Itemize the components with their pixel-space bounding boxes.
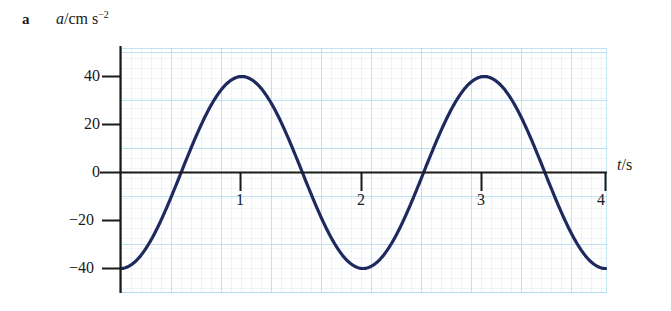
part-label: a: [22, 10, 30, 28]
y-tick-label-20: 20: [40, 116, 100, 132]
y-axis-unit-exponent: −2: [98, 9, 109, 20]
x-axis-caption: t/s: [617, 155, 632, 175]
x-axis-unit-text: s: [626, 156, 632, 173]
x-tick-label-2: 2: [346, 192, 376, 208]
y-axis-unit-text: /cm s: [64, 10, 98, 27]
x-tick-label-4: 4: [586, 192, 616, 208]
acceleration-curve: [121, 48, 607, 293]
y-tick-label-40: 40: [40, 68, 100, 84]
x-tick-label-1: 1: [225, 192, 255, 208]
y-axis-caption: a/cm s−2: [56, 9, 109, 29]
y-axis-quantity-symbol: a: [56, 10, 64, 27]
y-tick-label-minus-40: −40: [34, 260, 94, 276]
figure-acceleration-time-graph: a a/cm s−2 t/s: [0, 0, 671, 311]
plot-area: [121, 48, 607, 293]
x-tick-label-3: 3: [466, 192, 496, 208]
y-tick-label-minus-20: −20: [34, 212, 94, 228]
y-tick-label-0: 0: [40, 164, 100, 180]
